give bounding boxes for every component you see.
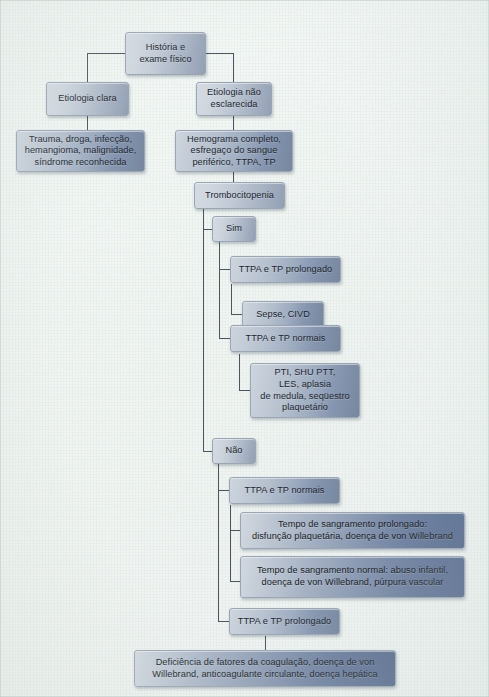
- connector-ttpa-prolongado-down: [231, 284, 232, 314]
- node-tempo-sangramento-prolongado[interactable]: Tempo de sangramento prolongado: disfunç…: [240, 512, 465, 549]
- node-label: Etiologia clara: [51, 93, 124, 105]
- node-nao[interactable]: Não: [212, 438, 256, 464]
- node-label: Trauma, droga, infecção, hemangioma, mal…: [21, 134, 140, 169]
- connector-tempo-spine: [230, 505, 231, 581]
- flowchart-page: História e exame físico Etiologia clara …: [0, 0, 489, 697]
- connector-trombocitopenia-spine: [203, 208, 204, 451]
- node-sim-ttpa-tp-normais[interactable]: TTPA e TP normais: [230, 325, 341, 352]
- connector-ttpa-normais-down: [239, 354, 240, 390]
- node-sim[interactable]: Sim: [212, 216, 256, 242]
- frame-edge-left: [0, 0, 1, 697]
- node-label: TTPA e TP normais: [235, 333, 336, 345]
- node-label: TTPA e TP normais: [234, 485, 335, 497]
- connector-nao-spine: [218, 464, 219, 621]
- node-label: Hemograma completo, esfregaço do sangue …: [180, 134, 288, 169]
- node-nao-ttpa-tp-prolongado[interactable]: TTPA e TP prolongado: [229, 608, 340, 635]
- node-trombocitopenia[interactable]: Trombocitopenia: [194, 182, 285, 209]
- node-nao-ttpa-tp-normais[interactable]: TTPA e TP normais: [229, 477, 340, 504]
- connector-sim-spine: [219, 242, 220, 338]
- node-label: Etiologia não esclarecida: [201, 87, 267, 110]
- connector-etiologia-clara-down: [87, 116, 88, 130]
- node-pti-shu-ptt[interactable]: PTI, SHU PTT, LES, aplasia de medula, se…: [250, 363, 360, 418]
- node-label: Não: [217, 445, 251, 457]
- node-tempo-sangramento-normal[interactable]: Tempo de sangramento normal: abuso infan…: [240, 556, 465, 598]
- node-label: Deficiência de fatores da coagulação, do…: [139, 657, 391, 680]
- node-historia-exame-fisico[interactable]: História e exame físico: [125, 32, 206, 75]
- node-label: Sepse, CIVD: [247, 309, 319, 321]
- node-label: História e exame físico: [130, 42, 201, 65]
- node-label: TTPA e TP prolongado: [234, 616, 335, 628]
- node-label: Tempo de sangramento prolongado: disfunç…: [245, 519, 460, 542]
- connector-root-to-etiologia-nao: [233, 53, 234, 82]
- node-label: Sim: [217, 223, 251, 235]
- connector-hemograma-to-trombocitopenia: [233, 172, 234, 182]
- node-label: TTPA e TP prolongado: [235, 264, 336, 276]
- node-etiologia-nao-esclarecida[interactable]: Etiologia não esclarecida: [196, 82, 272, 116]
- frame-edge-top: [0, 0, 489, 1]
- node-label: Trombocitopenia: [199, 190, 280, 202]
- connector-ttpa-prolongado-to-deficiencia: [265, 636, 266, 651]
- connector-root-to-etiologia-clara: [87, 53, 88, 82]
- node-label: Tempo de sangramento normal: abuso infan…: [245, 565, 460, 588]
- node-causas-conhecidas[interactable]: Trauma, droga, infecção, hemangioma, mal…: [16, 130, 145, 172]
- node-hemograma-completo[interactable]: Hemograma completo, esfregaço do sangue …: [175, 130, 293, 172]
- node-deficiencia-fatores-coagulacao[interactable]: Deficiência de fatores da coagulação, do…: [134, 650, 396, 687]
- node-sim-ttpa-tp-prolongado[interactable]: TTPA e TP prolongado: [230, 256, 341, 283]
- node-label: PTI, SHU PTT, LES, aplasia de medula, se…: [255, 367, 355, 413]
- node-sepse-civd[interactable]: Sepse, CIVD: [242, 301, 324, 328]
- connector-etiologia-nao-down: [233, 116, 234, 130]
- node-etiologia-clara[interactable]: Etiologia clara: [46, 82, 129, 116]
